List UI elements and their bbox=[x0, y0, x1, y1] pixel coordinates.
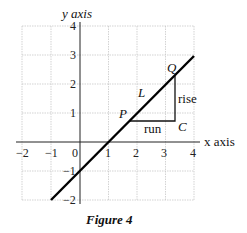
x-tick: −1 bbox=[45, 146, 58, 160]
x-tick: 1 bbox=[105, 146, 111, 160]
x-tick: −2 bbox=[16, 146, 29, 160]
grid bbox=[22, 26, 194, 200]
y-tick: 3 bbox=[70, 48, 76, 62]
x-tick: 0 bbox=[72, 146, 78, 160]
figure-caption: Figure 4 bbox=[85, 212, 133, 227]
y-tick: 4 bbox=[70, 19, 76, 33]
point-label-q: Q bbox=[167, 60, 177, 75]
x-axis-label: x axis bbox=[204, 134, 235, 149]
slope-diagram: y axis x axis −2 −1 0 1 2 3 4 4 3 2 1 −1… bbox=[0, 0, 247, 233]
point-label-c: C bbox=[178, 119, 187, 134]
point-label-p: P bbox=[118, 106, 127, 121]
y-tick: 1 bbox=[70, 106, 76, 120]
x-tick: 4 bbox=[190, 146, 196, 160]
line-label-l: L bbox=[137, 85, 145, 100]
y-tick: 2 bbox=[70, 77, 76, 91]
x-tick: 2 bbox=[133, 146, 139, 160]
x-tick: 3 bbox=[161, 146, 167, 160]
y-tick: −2 bbox=[63, 193, 76, 207]
rise-label: rise bbox=[178, 91, 197, 106]
run-label: run bbox=[144, 121, 162, 136]
